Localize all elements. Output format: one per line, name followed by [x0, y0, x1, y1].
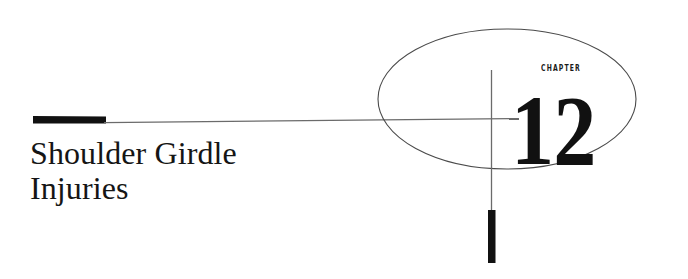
vertical-accent-bar — [488, 210, 496, 263]
chapter-opener-page: CHAPTER 12 Shoulder Girdle Injuries — [0, 0, 688, 279]
chapter-title: Shoulder Girdle Injuries — [30, 136, 360, 206]
horizontal-accent-bar — [33, 116, 106, 124]
horizontal-sloped-line — [104, 119, 519, 123]
chapter-title-line-2: Injuries — [30, 171, 360, 206]
chapter-label: CHAPTER — [541, 63, 581, 73]
chapter-title-line-1: Shoulder Girdle — [30, 136, 360, 171]
outline-ellipse — [378, 29, 636, 169]
chapter-number: 12 — [511, 80, 595, 180]
